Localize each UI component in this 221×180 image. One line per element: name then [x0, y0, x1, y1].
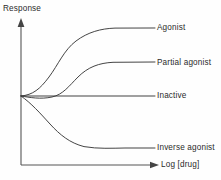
curve-label-agonist: Agonist	[157, 24, 185, 32]
y-axis	[18, 18, 25, 165]
dose-response-curve-figure: Response Log [drug] Agonist Partial agon…	[0, 0, 221, 180]
x-axis-label: Log [drug]	[161, 161, 199, 169]
x-axis-arrowhead-icon	[150, 162, 159, 169]
curve-label-inverse-agonist: Inverse agonist	[157, 144, 215, 152]
curve-label-inactive: Inactive	[157, 92, 186, 100]
curve-partial-agonist	[21, 62, 155, 98]
y-axis-label: Response	[3, 5, 41, 13]
curve-inverse-agonist	[21, 96, 155, 148]
curve-label-partial-agonist: Partial agonist	[157, 59, 211, 67]
y-axis-arrowhead-icon	[18, 18, 25, 27]
x-axis	[21, 162, 159, 169]
plot-area	[0, 0, 221, 180]
